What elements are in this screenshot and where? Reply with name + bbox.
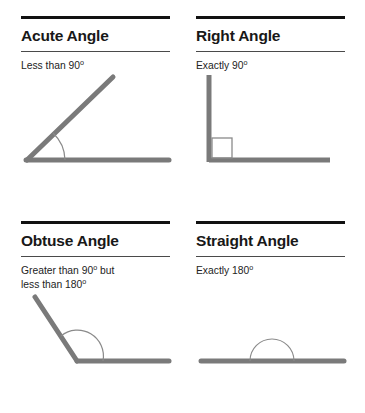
straight-angle-svg [196, 283, 356, 383]
angle-card-straight: Straight Angle Exactly 180o [196, 221, 349, 413]
acute-diagonal-ray [27, 77, 113, 160]
card-mid-rule [196, 256, 345, 257]
description-obtuse-line1: Greater than 90 [21, 265, 93, 276]
angle-card-right: Right Angle Exactly 90o [196, 16, 349, 221]
description-straight-text: Exactly 180 [196, 265, 249, 276]
heading-obtuse: Obtuse Angle [21, 231, 174, 250]
card-top-rule [21, 221, 170, 224]
acute-angle-arc [53, 133, 65, 160]
card-mid-rule [196, 51, 345, 52]
description-straight: Exactly 180o [196, 264, 346, 278]
figure-straight-angle [196, 283, 356, 383]
card-mid-rule [21, 256, 170, 257]
right-angle-square-marker [212, 138, 232, 158]
degree-symbol: o [249, 263, 253, 272]
angle-types-diagram: Acute Angle Less than 90o Right Angle Ex… [0, 0, 365, 413]
degree-symbol: o [244, 58, 248, 67]
description-obtuse-conjunction: but [97, 265, 114, 276]
heading-right: Right Angle [196, 26, 349, 45]
figure-acute-angle [21, 68, 181, 168]
angle-card-grid: Acute Angle Less than 90o Right Angle Ex… [0, 0, 365, 413]
angle-card-obtuse: Obtuse Angle Greater than 90o butless th… [21, 221, 174, 413]
heading-straight: Straight Angle [196, 231, 349, 250]
degree-symbol: o [80, 58, 84, 67]
card-top-rule [196, 221, 345, 224]
obtuse-angle-svg [21, 283, 181, 383]
acute-angle-svg [21, 68, 181, 168]
card-top-rule [21, 16, 170, 19]
figure-obtuse-angle [21, 283, 181, 383]
obtuse-upper-ray [35, 297, 77, 361]
figure-right-angle [196, 68, 356, 168]
angle-card-acute: Acute Angle Less than 90o [21, 16, 174, 221]
heading-acute: Acute Angle [21, 26, 174, 45]
card-top-rule [196, 16, 345, 19]
card-mid-rule [21, 51, 170, 52]
straight-angle-arc [250, 339, 294, 361]
right-angle-svg [196, 68, 356, 168]
